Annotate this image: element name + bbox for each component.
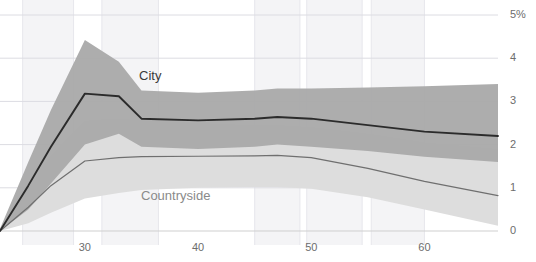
y-axis-tick-label: 1	[510, 181, 516, 193]
x-axis-tick-label: 60	[418, 241, 430, 253]
series-label-city: City	[139, 68, 161, 83]
y-axis-tick-label: 5%	[510, 8, 526, 20]
x-axis-tick-label: 40	[192, 241, 204, 253]
y-axis-tick-label: 4	[510, 51, 516, 63]
y-axis-tick-label: 0	[510, 224, 516, 236]
x-axis-tick-label: 50	[305, 241, 317, 253]
y-axis-tick-label: 2	[510, 138, 516, 150]
x-axis-tick-label: 30	[79, 241, 91, 253]
area-chart-plot	[0, 0, 536, 262]
y-axis-tick-label: 3	[510, 94, 516, 106]
chart-container: 5%43210 30405060 CityCountryside	[0, 0, 536, 262]
series-label-countryside: Countryside	[141, 188, 210, 203]
